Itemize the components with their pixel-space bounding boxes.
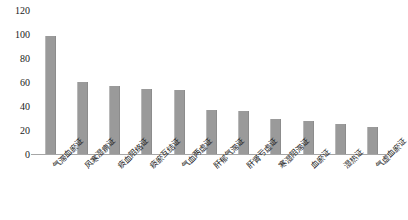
bar-slot xyxy=(195,6,227,154)
y-tick-label: 40 xyxy=(20,102,30,112)
bar-slot xyxy=(292,6,324,154)
y-tick-label: 20 xyxy=(20,126,30,136)
y-tick-label: 80 xyxy=(20,54,30,64)
x-slot: 寒湿阻滞证 xyxy=(260,158,292,220)
bar-slot xyxy=(66,6,98,154)
bar-slot xyxy=(357,6,389,154)
x-slot: 血瘀证 xyxy=(292,158,324,220)
bar-series xyxy=(34,6,389,154)
x-slot: 风寒湿痹证 xyxy=(66,158,98,220)
bar-slot xyxy=(228,6,260,154)
bar xyxy=(335,124,346,154)
x-slot: 气血两虚证 xyxy=(163,158,195,220)
bar xyxy=(45,36,56,154)
y-tick-label: 0 xyxy=(25,150,30,160)
x-slot: 肝郁气滞证 xyxy=(195,158,227,220)
x-slot: 湿热证 xyxy=(324,158,356,220)
y-tick-label: 120 xyxy=(15,6,30,16)
bar-slot xyxy=(324,6,356,154)
x-slot: 气滞血瘀证 xyxy=(34,158,66,220)
y-tick-label: 60 xyxy=(20,78,30,88)
bar-slot xyxy=(131,6,163,154)
plot-area xyxy=(34,6,389,155)
x-slot: 肝肾亏虚证 xyxy=(228,158,260,220)
bar xyxy=(367,127,378,154)
bar-slot xyxy=(260,6,292,154)
x-axis-line xyxy=(34,154,389,155)
x-slot: 痰血阻络证 xyxy=(99,158,131,220)
x-axis-labels: 气滞血瘀证 风寒湿痹证 痰血阻络证 痰瘀互结证 气血两虚证 肝郁气滞证 肝肾亏虚… xyxy=(34,158,389,220)
bar-slot xyxy=(99,6,131,154)
bar-slot xyxy=(163,6,195,154)
y-axis: 120 100 80 60 40 20 0 xyxy=(0,0,34,160)
axis-origin-tick xyxy=(31,154,34,155)
x-slot: 气虚血瘀证 xyxy=(357,158,389,220)
bar-slot xyxy=(34,6,66,154)
y-tick-label: 100 xyxy=(15,30,30,40)
x-slot: 痰瘀互结证 xyxy=(131,158,163,220)
